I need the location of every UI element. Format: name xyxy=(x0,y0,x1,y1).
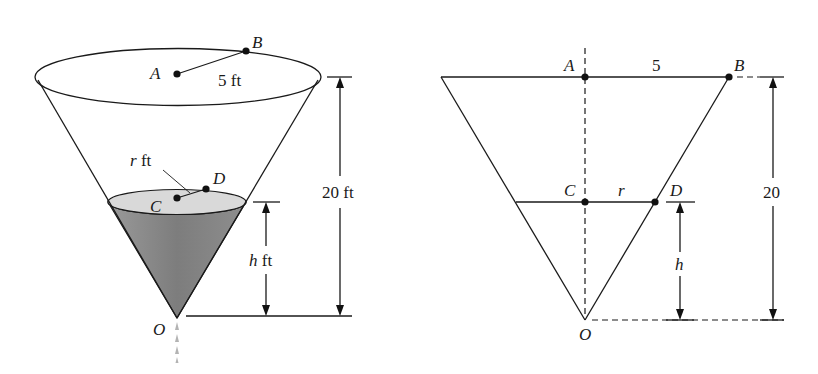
label-water-height: h ft xyxy=(249,251,272,270)
label-b: B xyxy=(252,33,263,52)
label-total-height: 20 ft xyxy=(322,183,354,202)
label-top-radius: 5 xyxy=(652,56,661,75)
point-a xyxy=(581,73,588,80)
right-edge xyxy=(585,77,729,320)
point-c xyxy=(581,198,588,205)
label-a: A xyxy=(563,56,575,75)
point-d xyxy=(651,198,658,205)
label-d: D xyxy=(212,169,226,188)
label-total-height: 20 xyxy=(763,183,780,202)
label-d: D xyxy=(669,181,683,200)
point-c xyxy=(173,194,180,201)
point-d xyxy=(202,185,209,192)
point-b xyxy=(725,73,732,80)
point-b xyxy=(242,47,249,54)
label-o: O xyxy=(579,325,591,344)
label-water-radius: r xyxy=(618,181,625,200)
water-volume xyxy=(108,202,246,318)
point-a xyxy=(173,70,180,77)
label-o: O xyxy=(153,320,165,339)
right-figure-cross-section: A B 5 C r D O 20 h xyxy=(441,48,784,344)
conical-tank-diagram: A B 5 ft C D r ft O 20 ft xyxy=(0,0,818,374)
left-figure-3d-cone: A B 5 ft C D r ft O 20 ft xyxy=(35,33,354,363)
label-c: C xyxy=(564,181,576,200)
label-a: A xyxy=(149,64,161,83)
drip-drops xyxy=(175,322,179,363)
label-water-height: h xyxy=(675,255,684,274)
label-b: B xyxy=(734,56,745,75)
label-water-radius: r ft xyxy=(130,151,152,170)
label-top-radius: 5 ft xyxy=(218,71,241,90)
water-surface xyxy=(108,190,246,215)
label-c: C xyxy=(150,197,162,216)
